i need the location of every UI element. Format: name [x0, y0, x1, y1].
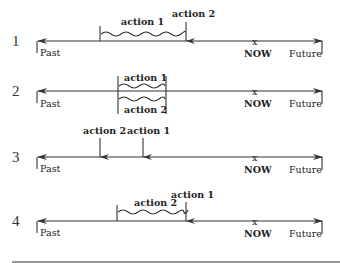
future-label: Future — [289, 48, 322, 59]
now-label: NOW — [244, 48, 272, 59]
row-number: 3 — [12, 149, 20, 165]
past-label: Past — [40, 47, 61, 58]
past-label: Past — [40, 98, 61, 109]
ongoing-action1-wave — [119, 84, 165, 88]
action1-label: action 1 — [124, 72, 167, 83]
past-label: Past — [40, 227, 61, 238]
action1-label: action 1 — [127, 125, 170, 136]
action1-label: action 1 — [171, 189, 214, 200]
timeline-row-3: 3 Past Future x NOW action 2 action 1 — [12, 125, 322, 175]
now-label: NOW — [244, 228, 272, 239]
row-number: 2 — [12, 83, 20, 99]
future-label: Future — [289, 164, 322, 175]
ongoing-action-wave — [118, 210, 188, 214]
ongoing-action2-wave — [119, 97, 165, 101]
row-number: 4 — [12, 213, 20, 229]
now-label: NOW — [244, 164, 272, 175]
tense-timeline-diagram: 1 Past Future x NOW action 1 action 2 2 … — [0, 0, 340, 263]
timeline-row-1: 1 Past Future x NOW action 1 action 2 — [12, 8, 322, 59]
now-marker: x — [252, 216, 258, 227]
ongoing-action-wave — [101, 31, 185, 36]
future-label: Future — [289, 228, 322, 239]
action2-label: action 2 — [124, 104, 167, 115]
action1-label: action 1 — [121, 16, 164, 27]
now-marker: x — [252, 86, 258, 97]
action2-label: action 2 — [83, 125, 126, 136]
timeline-row-4: 4 Past Future x NOW action 2 action 1 — [12, 189, 322, 239]
now-marker: x — [252, 152, 258, 163]
timeline-row-2: 2 Past Future x NOW action 1 action 2 — [12, 72, 322, 115]
future-label: Future — [289, 98, 322, 109]
row-number: 1 — [12, 33, 20, 49]
action2-label: action 2 — [172, 8, 215, 19]
now-marker: x — [252, 36, 258, 47]
now-label: NOW — [244, 98, 272, 109]
past-label: Past — [40, 163, 61, 174]
